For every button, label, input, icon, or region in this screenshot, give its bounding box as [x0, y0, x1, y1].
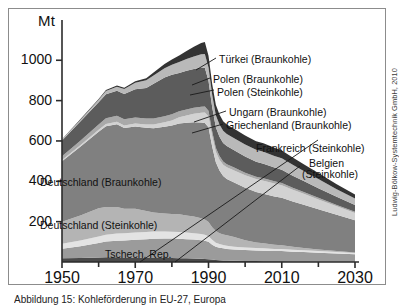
figure-caption: Abbildung 15: Kohleförderung in EU-27, E…: [14, 294, 226, 305]
callout-frankreich-steinkohle: Frankreich (Steinkohle): [256, 143, 365, 155]
area-label-deutschland-steinkohle: Deutschland (Steinkohle): [40, 219, 157, 231]
x-tick-label-2030: 2030: [325, 269, 385, 287]
credit-text: Ludwig-Bölkow-Systemtechnik GmbH, 2010: [390, 68, 399, 216]
y-tick-label-1000: 1000: [6, 51, 52, 67]
area-label-deutschland-braunkohle: Deutschland (Braunkohle): [40, 176, 161, 188]
x-tick-label-1950: 1950: [32, 269, 92, 287]
x-tick-label-2010: 2010: [252, 269, 312, 287]
y-tick-label-600: 600: [6, 132, 52, 148]
callout-griechenland-braunkohle: Griechenland (Braunkohle): [226, 120, 352, 132]
callout-polen-braunkohle: Polen (Braunkohle): [213, 74, 303, 86]
x-tick-label-1970: 1970: [105, 269, 165, 287]
y-tick-label-800: 800: [6, 92, 52, 108]
callout-polen-steinkohle: Polen (Steinkohle): [217, 87, 303, 99]
area-label-tschech-rep: Tschech. Rep.: [105, 248, 172, 260]
y-ticks: [56, 60, 62, 221]
y-axis-unit-label: Mt: [38, 12, 55, 29]
callout-belgien-steinkohle-line2: (Steinkohle): [302, 169, 358, 181]
x-tick-label-1990: 1990: [179, 269, 239, 287]
x-ticks: [62, 262, 355, 268]
figure-root: Mt 2004006008001000 19501970199020102030…: [0, 0, 403, 305]
callout-tuerkei-braunkohle: Türkei (Braunkohle): [219, 54, 311, 66]
callout-ungarn-braunkohle: Ungarn (Braunkohle): [229, 107, 326, 119]
